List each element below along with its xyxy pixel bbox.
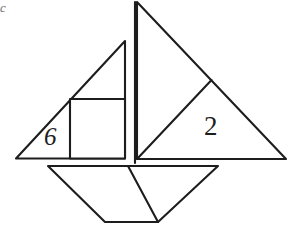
corner-mark: c [0,1,6,14]
piece-label-two: 2 [204,113,218,140]
tangram-figure-canvas: c 6 2 [0,0,288,233]
tangram-sailboat-diagram [0,0,288,233]
piece-label-six: 6 [44,124,57,149]
sail-square [70,99,125,159]
